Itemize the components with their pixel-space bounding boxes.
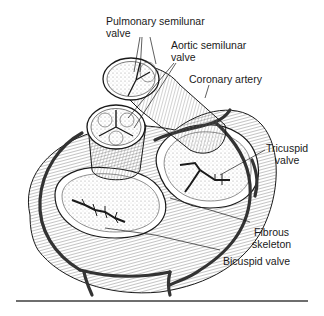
label-pulmonary-semilunar-valve: Pulmonary semilunar valve (106, 16, 205, 39)
label-coronary-artery: Coronary artery (189, 74, 262, 86)
label-fibrous-skeleton: Fibrous skeleton (252, 227, 291, 250)
label-aortic-semilunar-valve: Aortic semilunar valve (171, 40, 246, 63)
label-tricuspid-valve: Tricuspid valve (266, 143, 308, 166)
label-fibrous-line2: skeleton (252, 239, 291, 251)
label-tricuspid-line1: Tricuspid (266, 143, 308, 155)
label-fibrous-line1: Fibrous (252, 227, 291, 239)
label-aortic-line2: valve (171, 52, 246, 64)
label-coronary-line1: Coronary artery (189, 74, 262, 86)
label-aortic-line1: Aortic semilunar (171, 40, 246, 52)
bottom-divider-rule (16, 300, 308, 302)
label-bicuspid-valve: Bicuspid valve (223, 256, 290, 268)
label-pulmonary-line1: Pulmonary semilunar (106, 16, 205, 28)
label-pulmonary-line2: valve (106, 28, 205, 40)
label-tricuspid-line2: valve (266, 155, 308, 167)
aorta-drawing (87, 105, 146, 180)
label-bicuspid-line1: Bicuspid valve (223, 256, 290, 268)
